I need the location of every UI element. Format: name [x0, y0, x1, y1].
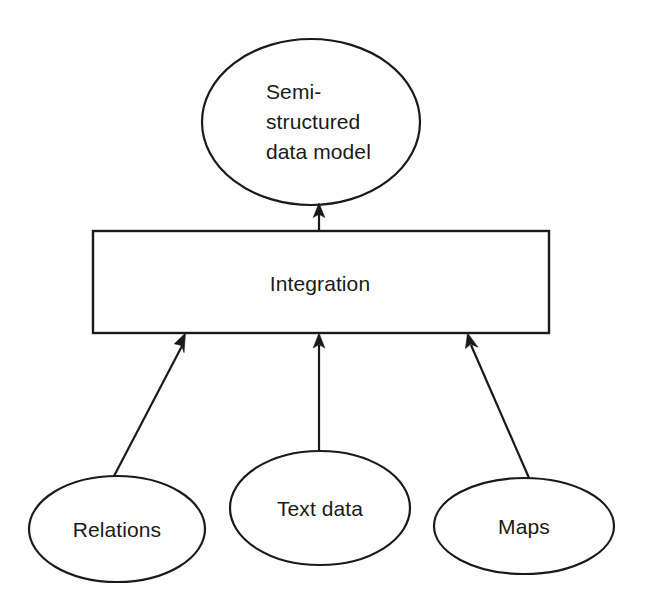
- edge-maps-to-integration: [466, 333, 530, 478]
- text-data-label: Text data: [277, 497, 363, 520]
- edge-text-data-to-integration: [313, 333, 325, 452]
- edge-relations-to-integration-line: [113, 345, 183, 478]
- diagram-canvas-container: Semi- structured data model Integration: [0, 0, 645, 616]
- semi-structured-data-model-label-line1: Semi-: [266, 80, 321, 103]
- maps-label: Maps: [498, 515, 550, 538]
- diagram-canvas: Semi- structured data model Integration: [0, 0, 645, 616]
- node-integration[interactable]: Integration: [93, 231, 549, 333]
- semi-structured-data-model-label-line3: data model: [266, 140, 371, 163]
- node-relations[interactable]: Relations: [29, 476, 205, 582]
- semi-structured-data-model-label-line2: structured: [266, 110, 360, 133]
- node-semi-structured-data-model[interactable]: Semi- structured data model: [202, 39, 420, 205]
- integration-label: Integration: [270, 272, 370, 295]
- edge-integration-to-semi-structured-data-model: [313, 203, 325, 231]
- relations-label: Relations: [73, 518, 161, 541]
- edge-relations-to-integration: [113, 333, 186, 478]
- edge-maps-to-integration-line: [471, 345, 529, 478]
- node-maps[interactable]: Maps: [434, 478, 614, 574]
- node-text-data[interactable]: Text data: [230, 451, 410, 565]
